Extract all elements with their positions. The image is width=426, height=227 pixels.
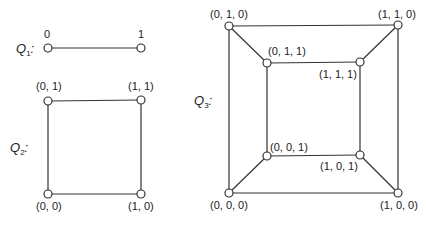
node-010: [225, 22, 233, 30]
label-001: (0, 0, 1): [270, 141, 308, 153]
q2-title: Q2:: [10, 140, 29, 157]
label-11: (1, 1): [128, 80, 154, 92]
label-111: (1, 1, 1): [319, 68, 357, 80]
edge-001-101: [267, 155, 360, 156]
node-10: [137, 190, 145, 198]
label-01: (0, 1): [36, 80, 62, 92]
node-000: [225, 189, 233, 197]
edge-010-011: [229, 26, 267, 63]
label-1: 1: [138, 28, 144, 40]
graph-q2: Q2: (0, 1) (1, 1) (0, 0) (1, 0): [10, 80, 154, 212]
edge-110-111: [360, 25, 398, 62]
label-100: (1, 0, 0): [380, 199, 418, 211]
node-100: [394, 189, 402, 197]
node-00: [44, 190, 52, 198]
label-110: (1, 1, 0): [378, 8, 416, 20]
edge-010-110: [229, 25, 398, 26]
label-010: (0, 1, 0): [210, 8, 248, 20]
label-0: 0: [44, 28, 50, 40]
label-00: (0, 0): [36, 200, 62, 212]
node-111: [356, 58, 364, 66]
label-10: (1, 0): [128, 200, 154, 212]
edge-011-111: [267, 62, 360, 63]
node-11: [137, 96, 145, 104]
node-011: [263, 59, 271, 67]
node-01: [44, 97, 52, 105]
label-011: (0, 1, 1): [268, 45, 306, 57]
edge-000-001: [229, 156, 267, 193]
edge-100-101: [360, 155, 398, 193]
label-000: (0, 0, 0): [210, 199, 248, 211]
node-101: [356, 151, 364, 159]
node-1: [137, 44, 145, 52]
node-110: [394, 21, 402, 29]
node-001: [263, 152, 271, 160]
q1-title: Q1:: [16, 41, 35, 58]
edge-01-11: [48, 100, 141, 101]
label-101: (1, 0, 1): [320, 160, 358, 172]
node-0: [44, 44, 52, 52]
hypercube-diagram: Q1: 0 1 Q2: (0, 1) (1, 1) (0, 0) (1, 0) …: [0, 0, 426, 227]
graph-q3: Q3: (0, 1, 0) (1, 1, 0) (0, 1, 1) (1, 1,…: [194, 8, 418, 211]
q3-title: Q3:: [194, 93, 213, 110]
graph-q1: Q1: 0 1: [16, 28, 145, 58]
